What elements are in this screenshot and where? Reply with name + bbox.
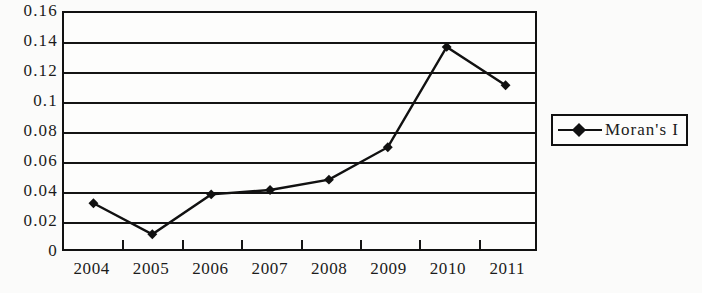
y-tick-label: 0.04: [2, 182, 58, 199]
y-tick-label: 0.08: [2, 122, 58, 139]
x-tick-label: 2007: [240, 256, 299, 286]
y-tick-label: 0.1: [2, 92, 58, 109]
x-tick: [182, 240, 184, 249]
x-tick-label: 2006: [181, 256, 240, 286]
y-tick-label: 0.14: [2, 32, 58, 49]
x-tick: [360, 240, 362, 249]
x-axis-ticks: [64, 13, 535, 249]
y-tick-label: 0.02: [2, 212, 58, 229]
x-tick-label: 2010: [418, 256, 477, 286]
x-tick: [301, 240, 303, 249]
x-tick: [419, 240, 421, 249]
x-tick: [479, 240, 481, 249]
x-tick-label: 2009: [359, 256, 418, 286]
y-tick-label: 0.12: [2, 62, 58, 79]
y-tick-label: 0.16: [2, 2, 58, 19]
chart-figure: 0.160.140.120.10.080.060.040.020 2004200…: [0, 0, 702, 293]
x-tick: [122, 240, 124, 249]
x-tick-label: 2004: [62, 256, 121, 286]
x-tick-label: 2011: [478, 256, 537, 286]
x-axis: 20042005200620072008200920102011: [62, 256, 537, 286]
y-axis: 0.160.140.120.10.080.060.040.020: [0, 0, 58, 293]
plot-area: [62, 11, 537, 251]
legend: Moran's I: [551, 114, 688, 146]
x-tick-label: 2008: [300, 256, 359, 286]
legend-label: Moran's I: [602, 120, 679, 140]
diamond-marker-icon: [572, 123, 586, 137]
x-tick: [241, 240, 243, 249]
x-tick-label: 2005: [121, 256, 180, 286]
legend-marker-icon: [558, 123, 602, 137]
y-tick-label: 0.06: [2, 152, 58, 169]
y-tick-label: 0: [2, 242, 58, 259]
